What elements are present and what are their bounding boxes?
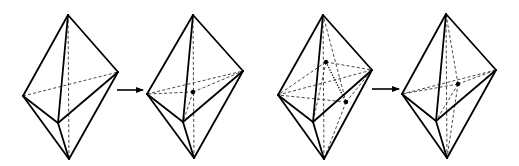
visible-edge (323, 15, 372, 70)
visible-edge (58, 72, 118, 123)
visible-edge (147, 94, 194, 158)
visible-edge (193, 15, 243, 71)
interior-point (324, 60, 328, 64)
diagram-canvas (0, 0, 519, 166)
visible-edge (69, 72, 118, 159)
hidden-edge (323, 15, 324, 159)
interior-point (344, 100, 348, 104)
visible-edge (68, 15, 118, 72)
octahedron-2 (147, 15, 243, 158)
interior-edge (402, 84, 458, 94)
octahedron-1 (23, 15, 118, 159)
interior-edge (346, 70, 372, 102)
octahedra-group (23, 14, 496, 159)
visible-edge (58, 123, 69, 159)
visible-edge (447, 70, 496, 158)
interior-point (191, 90, 195, 94)
interior-point (456, 82, 460, 86)
hidden-edge (193, 15, 194, 158)
hidden-edge (68, 15, 69, 159)
visible-edge (23, 96, 69, 159)
visible-edge (446, 14, 496, 70)
visible-edge (313, 70, 372, 122)
visible-edge (194, 71, 243, 158)
visible-edge (324, 70, 372, 159)
visible-edge (313, 122, 324, 159)
visible-edge (183, 122, 194, 158)
visible-edge (436, 121, 447, 158)
octahedron-3 (278, 15, 372, 159)
visible-edge (436, 70, 496, 121)
visible-edge (402, 94, 447, 158)
octahedron-4 (402, 14, 496, 158)
